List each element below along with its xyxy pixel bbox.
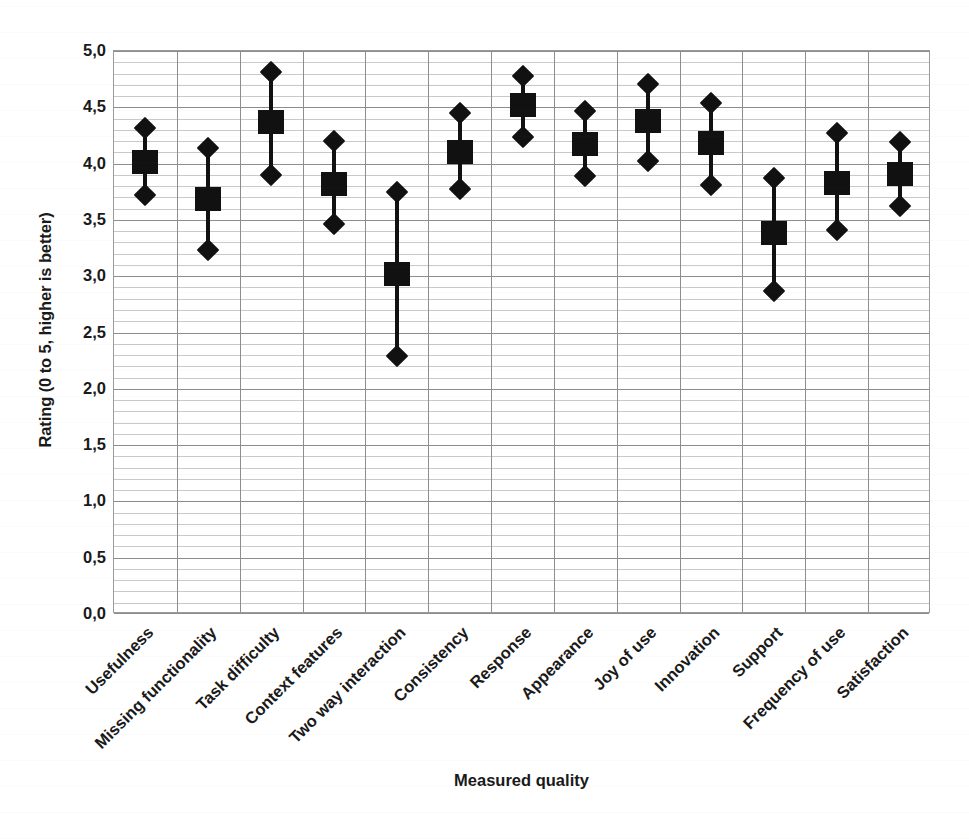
- lower-bound-marker: [637, 150, 660, 173]
- lower-bound-marker: [700, 174, 723, 197]
- mean-marker: [195, 187, 221, 211]
- mean-marker: [384, 262, 410, 286]
- upper-bound-marker: [385, 180, 408, 203]
- mean-marker: [132, 150, 158, 174]
- y-axis-tick-label: 2,0: [48, 380, 106, 397]
- upper-bound-marker: [763, 167, 786, 190]
- y-axis-tick-label: 5,0: [48, 42, 106, 59]
- upper-bound-marker: [700, 91, 723, 114]
- lower-bound-marker: [323, 213, 346, 236]
- plot-area: [113, 50, 930, 613]
- y-axis-tick-label: 3,5: [48, 211, 106, 228]
- mean-marker: [635, 109, 661, 133]
- y-axis-tick-label: 1,5: [48, 436, 106, 453]
- upper-bound-marker: [888, 131, 911, 154]
- lower-bound-marker: [385, 345, 408, 368]
- chart-figure: Rating (0 to 5, higher is better) 5,04,5…: [0, 0, 969, 839]
- lower-bound-marker: [511, 125, 534, 148]
- y-axis-tick-label: 1,0: [48, 492, 106, 509]
- data-series-layer: [114, 51, 929, 612]
- mean-marker: [510, 93, 536, 117]
- lower-bound-marker: [574, 165, 597, 188]
- mean-marker: [887, 162, 913, 186]
- upper-bound-marker: [637, 72, 660, 95]
- upper-bound-marker: [260, 61, 283, 84]
- upper-bound-marker: [574, 99, 597, 122]
- mean-marker: [321, 172, 347, 196]
- lower-bound-marker: [134, 184, 157, 207]
- upper-bound-marker: [448, 102, 471, 125]
- lower-bound-marker: [448, 178, 471, 201]
- mean-marker: [761, 221, 787, 245]
- lower-bound-marker: [888, 195, 911, 218]
- x-axis-title: Measured quality: [113, 771, 930, 790]
- mean-marker: [824, 171, 850, 195]
- mean-marker: [258, 110, 284, 134]
- upper-bound-marker: [323, 130, 346, 153]
- mean-marker: [447, 140, 473, 164]
- y-axis-tick-label: 0,0: [48, 605, 106, 622]
- y-axis-tick-label: 3,0: [48, 267, 106, 284]
- y-axis-tick-label: 2,5: [48, 323, 106, 340]
- y-axis-tick-labels: 5,04,54,03,53,02,52,01,51,00,50,0: [48, 50, 106, 613]
- y-axis-tick-label: 0,5: [48, 548, 106, 565]
- y-axis-tick-label: 4,5: [48, 98, 106, 115]
- upper-bound-marker: [197, 137, 220, 160]
- lower-bound-marker: [260, 164, 283, 187]
- x-axis-tick-label: Satisfaction: [686, 623, 912, 839]
- upper-bound-marker: [511, 64, 534, 87]
- lower-bound-marker: [763, 280, 786, 303]
- mean-marker: [698, 131, 724, 155]
- y-axis-tick-label: 4,0: [48, 154, 106, 171]
- lower-bound-marker: [825, 219, 848, 242]
- mean-marker: [572, 132, 598, 156]
- x-axis-tick-labels: UsefulnessMissing functionalityTask diff…: [113, 613, 930, 763]
- upper-bound-marker: [134, 116, 157, 139]
- lower-bound-marker: [197, 239, 220, 262]
- upper-bound-marker: [825, 122, 848, 145]
